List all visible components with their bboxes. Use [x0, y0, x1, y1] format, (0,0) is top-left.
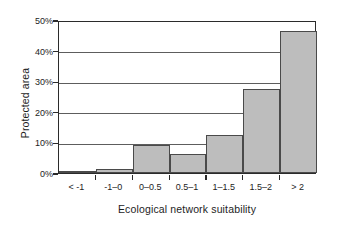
- x-axis-tick-label: 1–1.5: [213, 182, 236, 192]
- y-axis-tick-label: 0%: [13, 169, 53, 179]
- x-axis-tick-mark: [132, 175, 133, 180]
- y-axis-tick-label: 50%: [13, 16, 53, 26]
- y-axis-tick-label: 20%: [13, 108, 53, 118]
- x-axis-tick-label: < -1: [69, 182, 85, 192]
- x-axis-tick-label: 1.5–2: [249, 182, 272, 192]
- bar: [59, 171, 96, 173]
- bar: [96, 169, 133, 173]
- x-axis-tick-mark: [95, 175, 96, 180]
- x-axis-tick-mark: [242, 175, 243, 180]
- x-axis-tick-label: > 2: [291, 182, 304, 192]
- bar-group: [59, 22, 315, 173]
- x-axis-tick-label: -1–0: [104, 182, 122, 192]
- plot-area: [58, 21, 316, 174]
- bar-chart-figure: Protected area 0%10%20%30%40%50% < -1-1–…: [0, 0, 340, 230]
- bar: [133, 145, 170, 173]
- x-axis-title: Ecological network suitability: [58, 203, 316, 215]
- y-axis-tick-label: 30%: [13, 77, 53, 87]
- bar: [243, 89, 280, 173]
- bar: [206, 135, 243, 173]
- y-axis-tick-label: 40%: [13, 47, 53, 57]
- x-axis-tick-mark: [279, 175, 280, 180]
- x-axis-tick-label: 0–0.5: [139, 182, 162, 192]
- y-axis-tick-label: 10%: [13, 138, 53, 148]
- bar: [280, 31, 317, 173]
- x-axis-tick-label: 0.5–1: [176, 182, 199, 192]
- x-axis-tick-mark: [169, 175, 170, 180]
- bar: [170, 154, 207, 173]
- x-axis-tick-mark: [205, 175, 206, 180]
